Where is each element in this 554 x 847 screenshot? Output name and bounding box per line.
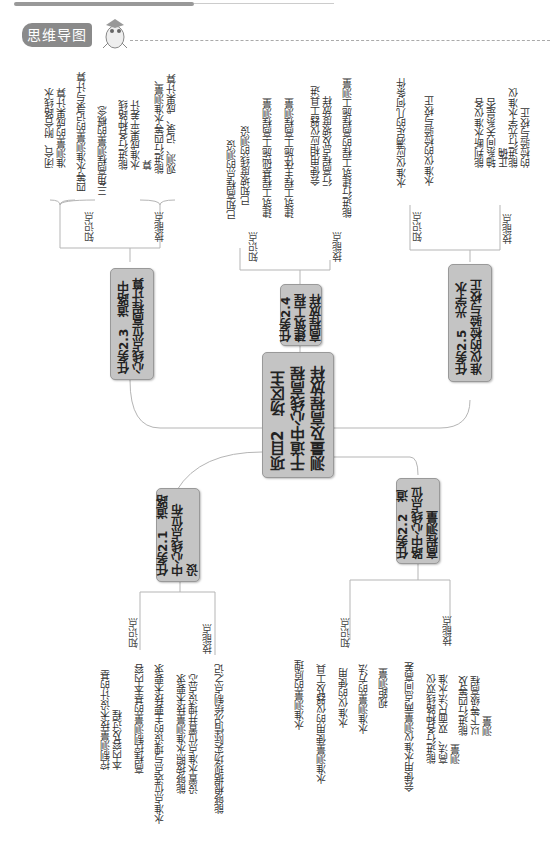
knowledge-label: 知识点 — [410, 212, 425, 242]
knowledge-item: 建筑工程基础施工高程测量 — [262, 98, 274, 218]
task-node-2-5: 任务2.5 光学水准仪的检验与校正 — [448, 264, 492, 382]
knowledge-item: 建筑工程主体施工高程测量 — [284, 98, 296, 218]
skill-label: 技能点 — [330, 232, 345, 262]
skill-item: 能判断水准仪各轴系间关系是否正确 — [474, 92, 510, 168]
knowledge-item: 水准测量的方法 — [358, 664, 370, 734]
task-title: 任务2.4 建筑工程高程放样 — [279, 288, 324, 342]
knowledge-item: 闭合、附合路线水准测量的成果计算 — [44, 88, 68, 168]
knowledge-item: 水准测量使用的仪器及工具 — [316, 664, 328, 784]
task-title: 任务2.1 道路中心线点位布设 — [156, 494, 201, 576]
skill-item: 能进行建筑工程的高程施工测量 — [342, 78, 354, 218]
center-node: 项目2 场区主干道中心线高程测量及高程放样 — [262, 352, 334, 478]
task-node-2-3: 任务2.3 道路中心线点位高程计算 — [110, 268, 154, 380]
knowledge-item: 已知高程点的测设 — [226, 140, 238, 220]
knowledge-item: 水准测量的原理 — [294, 660, 306, 730]
knowledge-item: 三角高程测量的概念 — [97, 106, 109, 196]
task-node-2-2: 任务2.2 道路中心线点位高程测量 — [396, 478, 440, 564]
skill-item: 能够根据现场实际情况绘制点之记 — [214, 664, 226, 814]
skill-item: 能进行各种路线水准成果平差计算 — [118, 94, 154, 170]
knowledge-item: 四等水准测量的记录与计算 — [76, 72, 88, 192]
knowledge-label: 知识点 — [338, 618, 353, 648]
skill-item: 能进行光学水准仪的检验与校正 — [508, 82, 532, 168]
skill-item: 会使用相应仪器工具进行高程点及坡度放样 — [310, 82, 334, 186]
skill-item: 能进行四等及以下等级高程测量 — [458, 668, 494, 736]
knowledge-label: 知识点 — [82, 212, 97, 242]
knowledge-item: 视距测量 — [378, 668, 390, 708]
skill-label: 技能点 — [200, 624, 215, 654]
knowledge-item: 水准仪的检验与校正 — [424, 96, 436, 186]
knowledge-item: 水准仪应满足的几何条件 — [396, 78, 408, 188]
skill-label: 技能点 — [440, 616, 455, 646]
skill-item: 能进行四等水准测量、观测、记录、成果计算 — [154, 70, 178, 174]
knowledge-item: 控制测量技术设计的基本内容及过程 — [100, 670, 124, 770]
skill-item: 会使用水准仪测量两点间高差 — [404, 662, 416, 792]
knowledge-item: 水准仪的使用 — [338, 668, 350, 728]
task-node-2-4: 任务2.4 建筑工程高程放样 — [280, 284, 322, 346]
skill-item: 能够按照水准测量技术要求设置水准点位置并埋设点芯 — [176, 666, 200, 794]
knowledge-label: 知识点 — [126, 618, 141, 648]
knowledge-item: 水准点位选点与埋设的主要技术要求 — [154, 664, 166, 824]
skill-label: 技能点 — [152, 212, 167, 242]
task-title: 任务2.3 道路中心线点位高程计算 — [117, 274, 147, 374]
task-title: 任务2.2 道路中心线点位高程测量 — [396, 483, 441, 559]
knowledge-label: 知识点 — [246, 232, 261, 262]
task-node-2-1: 任务2.1 道路中心线点位布设 — [156, 488, 200, 582]
task-title: 任务2.5 光学水准仪的检验与校正 — [455, 271, 485, 375]
knowledge-item: 高程控制测量的基本内容 — [134, 664, 146, 774]
skill-item: 能进行各种路线双仪高法、双面尺法水准测量 — [426, 668, 462, 764]
center-node-title: 项目2 场区主干道中心线高程测量及高程放样 — [268, 359, 328, 471]
knowledge-item: 已知坡度线的测设 — [240, 126, 252, 206]
skill-label: 技能点 — [500, 214, 515, 244]
